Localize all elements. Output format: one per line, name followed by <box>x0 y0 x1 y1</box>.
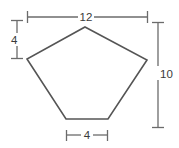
figure-canvas: 12 4 10 4 <box>0 0 179 148</box>
dimension-bottom-label: 4 <box>84 129 91 141</box>
dimension-top-label: 12 <box>80 11 93 23</box>
pentagon-shape <box>27 27 147 119</box>
geometry-figure: 12 4 10 4 <box>0 0 179 148</box>
dimension-top: 12 <box>27 11 148 23</box>
dimension-right: 10 <box>152 22 173 128</box>
dimension-left: 4 <box>11 20 23 59</box>
dimension-right-label: 10 <box>160 68 173 80</box>
dimension-left-label: 4 <box>11 34 18 46</box>
dimension-bottom: 4 <box>66 129 108 141</box>
